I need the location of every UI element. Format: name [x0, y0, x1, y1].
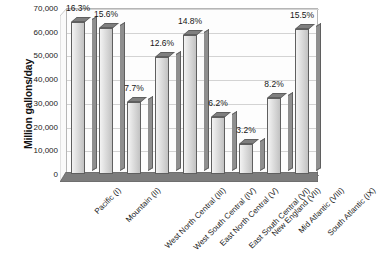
- y-tick-label: 40,000: [18, 75, 58, 84]
- bar-side-face: [176, 51, 181, 171]
- bar-data-label: 16.3%: [66, 3, 90, 13]
- bar-side-face: [288, 92, 293, 171]
- bar-group: 15.5%: [295, 8, 315, 174]
- y-tick-label: 50,000: [18, 51, 58, 60]
- bar: [239, 144, 253, 174]
- bar-top-face: [267, 93, 287, 98]
- bar-group: 7.7%: [127, 8, 147, 174]
- bar-side-face: [260, 138, 265, 171]
- y-tick-label: 60,000: [18, 27, 58, 36]
- bar: [183, 35, 197, 174]
- bar: [127, 102, 141, 174]
- bar-group: 12.6%: [155, 8, 175, 174]
- x-axis-label: Pacific (I): [93, 186, 123, 216]
- bar-group: 16.3%: [71, 8, 91, 174]
- bar-data-label: 6.2%: [208, 98, 227, 108]
- bar: [267, 98, 281, 174]
- y-tick-label: 20,000: [18, 122, 58, 131]
- bar-data-label: 15.5%: [290, 10, 314, 20]
- bar-top-face: [155, 52, 175, 57]
- bar-top-face: [127, 97, 147, 102]
- bar-group: 15.6%: [99, 8, 119, 174]
- bar: [295, 29, 309, 174]
- bar: [99, 28, 113, 174]
- plot-area: 16.3%15.6%7.7%12.6%14.8%6.2%3.2%8.2%15.5…: [60, 8, 318, 182]
- x-axis-category-labels: Pacific (I)Mountain (II)West North Centr…: [0, 184, 327, 253]
- bar-group: 8.2%: [267, 8, 287, 174]
- x-axis-label: Mountain (II): [124, 186, 162, 224]
- x-axis-label: East South Central (VI): [247, 186, 312, 251]
- bar-data-label: 14.8%: [178, 16, 202, 26]
- bar-top-face: [99, 23, 119, 28]
- bar: [155, 57, 169, 174]
- bar-group: 6.2%: [211, 8, 231, 174]
- bar-group: 14.8%: [183, 8, 203, 174]
- bar-data-label: 3.2%: [236, 125, 255, 135]
- bar-side-face: [120, 22, 125, 171]
- bar-side-face: [148, 96, 153, 171]
- bar-top-face: [239, 139, 259, 144]
- bar-top-face: [295, 24, 315, 29]
- bar: [71, 22, 85, 174]
- bar-data-label: 12.6%: [150, 38, 174, 48]
- y-tick-label: 70,000: [18, 4, 58, 13]
- bar-data-label: 7.7%: [124, 83, 143, 93]
- bar-side-face: [92, 16, 97, 171]
- y-tick-label: 30,000: [18, 98, 58, 107]
- bar-top-face: [71, 17, 91, 22]
- bar-data-label: 8.2%: [264, 79, 283, 89]
- bar-series: 16.3%15.6%7.7%12.6%14.8%6.2%3.2%8.2%15.5…: [66, 8, 318, 174]
- bar-side-face: [316, 23, 321, 171]
- bar: [211, 117, 225, 174]
- bar-top-face: [183, 30, 203, 35]
- bar-top-face: [211, 112, 231, 117]
- bar-data-label: 15.6%: [94, 9, 118, 19]
- y-axis-tick-labels: 010,00020,00030,00040,00050,00060,00070,…: [18, 0, 58, 185]
- y-tick-label: 0: [18, 170, 58, 179]
- bar-group: 3.2%: [239, 8, 259, 174]
- bar-side-face: [232, 111, 237, 171]
- y-tick-label: 10,000: [18, 146, 58, 155]
